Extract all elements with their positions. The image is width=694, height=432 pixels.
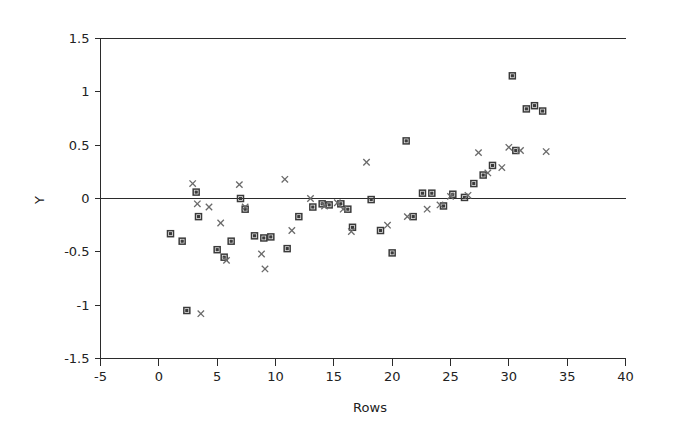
x-axis-tick-label: 25 [442,369,459,384]
data-point-cross [475,149,481,155]
data-point-cross [348,228,354,234]
data-point-cross [258,251,264,257]
data-point-square [509,73,515,79]
data-point-square [368,197,374,203]
y-axis-tick-label: -1 [77,298,90,313]
y-axis-tick-label: 0 [81,191,89,206]
data-point-cross [543,148,549,154]
ticks-group [95,39,626,366]
x-axis-tick-label: 10 [267,369,284,384]
x-axis-tick-label: 35 [559,369,576,384]
data-point-cross [217,220,223,226]
y-axis-tick-label: 1.5 [69,31,90,46]
data-point-cross [189,180,195,186]
data-point-cross [236,181,242,187]
x-axis-tick-label: 20 [384,369,401,384]
data-point-square [228,238,234,244]
x-axis-title: Rows [353,400,387,415]
y-axis-tick-label: -1.5 [64,351,89,366]
axes-group [101,39,626,359]
data-points-group [168,73,550,317]
data-point-square [532,103,538,109]
x-axis-tick-label: 0 [155,369,163,384]
x-axis-tick-label: 5 [213,369,221,384]
data-point-square [261,235,267,241]
data-point-square [540,108,546,114]
data-point-square [252,233,258,239]
data-point-square [378,228,384,234]
data-point-cross [499,164,505,170]
data-point-square [420,190,426,196]
x-axis-tick-label: 15 [326,369,343,384]
data-point-square [214,247,220,253]
data-point-square [284,246,290,252]
data-point-square [523,106,529,112]
data-point-square [184,308,190,314]
x-axis-tick-label: 30 [501,369,518,384]
y-axis-tick-label: -0.5 [64,244,89,259]
data-point-square [471,181,477,187]
data-point-cross [424,206,430,212]
scatter-plot-figure: -1.5-1-0.500.511.5-50510152025303540 Y R… [0,0,694,432]
y-axis-title: Y [32,196,47,205]
data-point-square [310,204,316,210]
data-point-cross [289,227,295,233]
plot-canvas: -1.5-1-0.500.511.5-50510152025303540 Y R… [0,0,694,432]
data-point-cross [282,176,288,182]
data-point-square [389,250,395,256]
data-point-square [296,214,302,220]
data-point-square [193,189,199,195]
data-point-cross [206,204,212,210]
data-point-cross [262,266,268,272]
data-point-square [490,162,496,168]
data-point-square [410,214,416,220]
x-axis-tick-label: -5 [94,369,107,384]
data-point-square [196,214,202,220]
y-axis-tick-label: 0.5 [69,138,90,153]
data-point-cross [384,222,390,228]
data-point-cross [363,159,369,165]
data-point-square [168,231,174,237]
data-point-cross [198,311,204,317]
data-point-square [268,234,274,240]
data-point-cross [506,144,512,150]
tick-labels-group: -1.5-1-0.500.511.5-50510152025303540 [64,31,634,384]
data-point-square [429,190,435,196]
data-point-square [179,238,185,244]
data-point-cross [194,201,200,207]
x-axis-tick-label: 40 [617,369,634,384]
y-axis-tick-label: 1 [81,84,89,99]
data-point-square [350,224,356,230]
data-point-square [403,138,409,144]
